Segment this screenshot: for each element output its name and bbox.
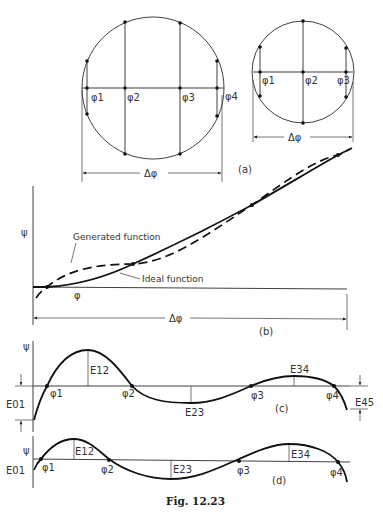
- large-label-phi2: φ2: [127, 92, 140, 103]
- b-x-axis-label: φ: [74, 290, 81, 301]
- panel-c-label: (c): [275, 403, 288, 414]
- c-y-axis-label: ψ: [23, 341, 30, 352]
- c-e23-label: E23: [185, 407, 204, 418]
- d-e34-label: E34: [291, 449, 310, 460]
- c-e45-label: E45: [355, 397, 374, 408]
- figure-canvas: φ1 φ2 φ3 φ4 Δφ φ1 φ2 φ3: [0, 0, 383, 518]
- small-label-phi1: φ1: [262, 75, 275, 86]
- large-label-phi1: φ1: [91, 92, 104, 103]
- b-x-axis: [33, 287, 347, 289]
- panel-a-label: (a): [238, 164, 252, 175]
- panel-a-large-circle: φ1 φ2 φ3 φ4 Δφ: [82, 17, 238, 182]
- d-e01-label: E01: [6, 465, 25, 476]
- c-e34-label: E34: [290, 364, 309, 375]
- panel-c: ψ φ1 φ2 φ3 φ4 E12 E23 E34 E01 E45 (c): [6, 341, 374, 432]
- b-dimension-right: [190, 318, 346, 319]
- d-phi4-label: φ4: [330, 467, 343, 478]
- small-label-phi3: φ3: [337, 75, 350, 86]
- c-phi1-label: φ1: [50, 388, 63, 399]
- large-label-phi4: φ4: [225, 91, 238, 102]
- small-label-phi2: φ2: [305, 75, 318, 86]
- ideal-leader: [120, 273, 140, 279]
- b-span-label: Δφ: [169, 313, 183, 324]
- c-phi4-label: φ4: [326, 390, 339, 401]
- c-e01-label: E01: [6, 399, 25, 410]
- ideal-function-label: Ideal function: [142, 274, 204, 284]
- c-phi3-label: φ3: [251, 390, 264, 401]
- generated-leader: [71, 243, 76, 263]
- d-phi3-label: φ3: [237, 465, 250, 476]
- c-phi2-label: φ2: [122, 388, 135, 399]
- small-span-label: Δφ: [288, 132, 302, 143]
- b-y-axis-label: ψ: [21, 227, 28, 238]
- large-label-phi3: φ3: [182, 92, 195, 103]
- d-phi1-label: φ1: [42, 462, 55, 473]
- figure-caption: Fig. 12.23: [166, 495, 225, 507]
- panel-b: ψ φ Generated function Ideal function Δφ…: [21, 148, 352, 337]
- panel-d: ψ φ1 φ2 φ3 φ4 E12 E23 E34 E01 (d): [6, 436, 350, 488]
- d-y-axis-label: ψ: [23, 445, 30, 456]
- generated-function-label: Generated function: [73, 232, 160, 242]
- d-e12-label: E12: [75, 446, 94, 457]
- d-phi2-label: φ2: [101, 464, 114, 475]
- large-span-label: Δφ: [144, 168, 158, 179]
- d-e23-label: E23: [173, 464, 192, 475]
- panel-b-label: (b): [259, 326, 273, 337]
- panel-d-label: (d): [272, 475, 286, 486]
- panel-a-small-circle: φ1 φ2 φ3 Δφ: [252, 19, 354, 143]
- c-e12-label: E12: [90, 365, 109, 376]
